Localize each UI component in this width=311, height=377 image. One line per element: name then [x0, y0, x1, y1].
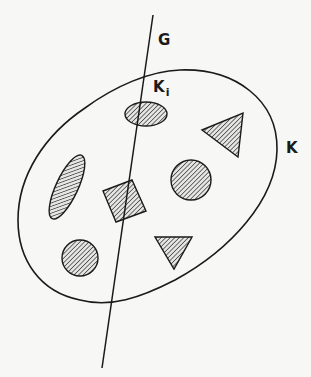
region-ki-ellipse [125, 102, 167, 126]
diagram-canvas: G Ki K [0, 0, 311, 377]
label-ki: Ki [153, 78, 169, 99]
triangle-shape [202, 113, 243, 157]
circle-shape-right [171, 160, 211, 200]
label-ki-sub: i [166, 86, 170, 99]
tilted-ellipse-shape [42, 151, 92, 224]
diagram-svg: G Ki K [0, 0, 311, 377]
label-k: K [286, 139, 299, 157]
triangle-down-shape [155, 237, 192, 269]
label-g: G [158, 31, 170, 49]
circle-shape-left [62, 240, 98, 276]
label-ki-main: K [153, 78, 166, 96]
